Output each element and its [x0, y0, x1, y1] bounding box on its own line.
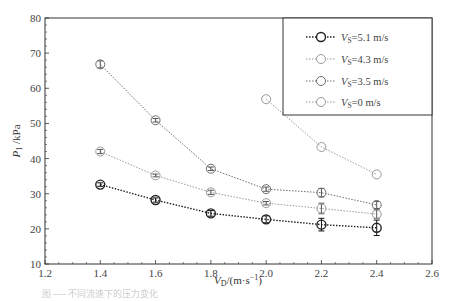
x-tick-label: 2.2	[315, 267, 329, 279]
y-tick-label: 20	[30, 223, 42, 235]
x-tick-label: 1.4	[93, 267, 107, 279]
y-tick-label: 60	[30, 82, 42, 94]
series-0	[96, 180, 381, 235]
y-tick-label: 40	[30, 153, 42, 165]
y-tick-label: 10	[30, 258, 42, 270]
legend-marker-icon	[317, 98, 326, 107]
y-tick-label: 30	[30, 188, 42, 200]
y-tick-label: 70	[30, 47, 42, 59]
legend: VS=5.1 m/sVS=4.3 m/sVS=3.5 m/sVS=0 m/s	[283, 18, 432, 115]
legend-marker-icon	[317, 77, 326, 86]
series-1	[96, 147, 381, 219]
y-tick-label: 50	[30, 117, 42, 129]
y-tick-label: 80	[30, 12, 42, 24]
legend-marker-icon	[317, 55, 326, 64]
legend-marker-icon	[317, 33, 326, 42]
x-tick-label: 2.6	[425, 267, 439, 279]
x-axis-label: VD/(m·s−1)	[214, 273, 262, 288]
data-point-marker	[372, 170, 381, 179]
line-chart: 1.21.41.61.82.02.22.42.61020304050607080…	[0, 0, 449, 301]
x-tick-label: 1.6	[149, 267, 163, 279]
x-tick-label: 2.4	[370, 267, 384, 279]
y-axis-label: P1 /kPa	[10, 124, 24, 158]
figure-caption: 图 ── 不同流速下的压力变化	[42, 287, 422, 299]
